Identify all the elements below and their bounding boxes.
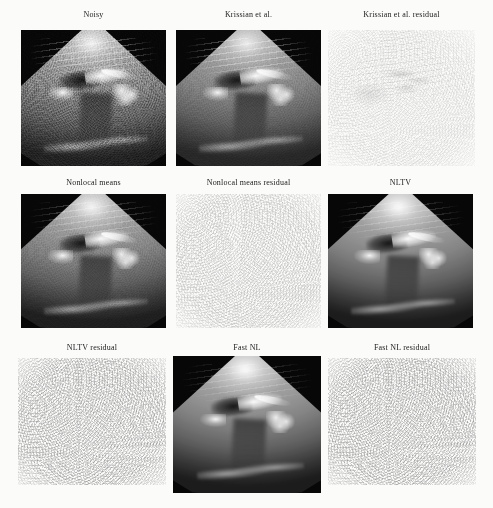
panel-image-krissian-residual [328,30,475,166]
panel-nltv-residual: NLTV residual [18,343,166,485]
panel-label-nltv-residual: NLTV residual [18,343,166,353]
panel-image-fast-nl [173,356,321,493]
panel-fast-nl: Fast NL [173,343,321,493]
panel-image-noisy [21,30,166,166]
panel-label-nltv: NLTV [328,178,473,188]
panel-label-noisy: Noisy [21,10,166,20]
panel-label-fast-nl: Fast NL [173,343,321,353]
panel-noisy: Noisy [21,10,166,166]
panel-nonlocal-means: Nonlocal means [21,178,166,328]
panel-image-krissian [176,30,321,166]
panel-fast-nl-residual: Fast NL residual [328,343,476,485]
panel-label-nonlocal-means-residual: Nonlocal means residual [176,178,321,188]
panel-label-krissian-residual: Krissian et al. residual [328,10,475,20]
panel-image-nonlocal-means [21,194,166,328]
panel-label-fast-nl-residual: Fast NL residual [328,343,476,353]
panel-image-nltv [328,194,473,328]
panel-image-nltv-residual [18,358,166,485]
figure-panel-grid: Noisy Krissian et al. [0,0,493,508]
panel-label-nonlocal-means: Nonlocal means [21,178,166,188]
panel-image-fast-nl-residual [328,358,476,485]
panel-image-nonlocal-means-residual [176,194,321,328]
panel-nonlocal-means-residual: Nonlocal means residual [176,178,321,328]
panel-krissian-residual: Krissian et al. residual [328,10,475,166]
panel-label-krissian: Krissian et al. [176,10,321,20]
panel-krissian: Krissian et al. [176,10,321,166]
panel-nltv: NLTV [328,178,473,328]
